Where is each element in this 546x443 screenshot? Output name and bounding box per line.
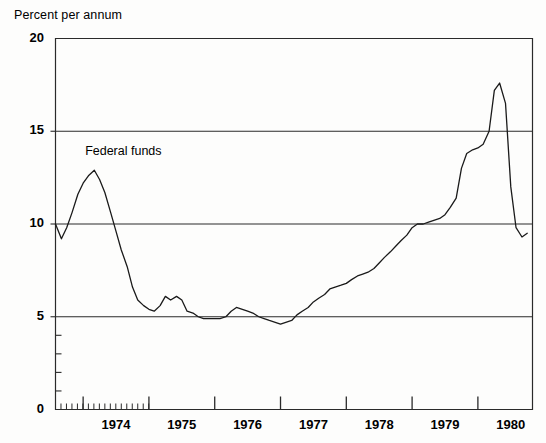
y-tick-label-5: 5 [10,308,44,323]
y-tick-label-0: 0 [10,401,44,416]
x-tick-label-1977: 1977 [278,417,348,432]
axis-major-ticks [83,397,478,410]
x-tick-label-1980: 1980 [476,417,546,432]
line-chart-plot [0,0,546,443]
x-tick-label-1976: 1976 [213,417,283,432]
x-tick-label-1974: 1974 [81,417,151,432]
chart-container: Percent per annum 05101520 1974197519761… [0,0,546,443]
gridlines [56,131,533,317]
x-tick-label-1979: 1979 [410,417,480,432]
data-series-group [56,83,528,324]
y-tick-label-20: 20 [10,30,44,45]
axis-minor-ticks [51,131,149,409]
x-tick-label-1978: 1978 [344,417,414,432]
y-tick-label-15: 15 [10,122,44,137]
x-tick-label-1975: 1975 [147,417,217,432]
y-tick-label-10: 10 [10,215,44,230]
series-label-federal-funds: Federal funds [85,144,161,158]
